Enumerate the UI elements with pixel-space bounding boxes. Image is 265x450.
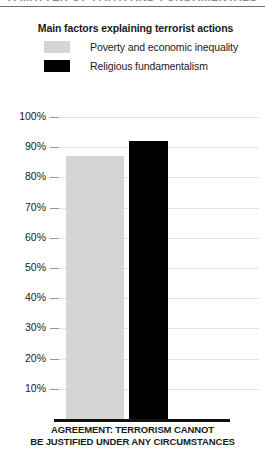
caption-line-2: BE JUSTIFIED UNDER ANY CIRCUMSTANCES <box>0 436 265 448</box>
y-tick-mark <box>50 238 59 239</box>
chart-caption: AGREEMENT: TERRORISM CANNOT BE JUSTIFIED… <box>0 424 265 448</box>
legend-swatch-poverty <box>44 41 70 53</box>
y-tick-label: 30% <box>6 321 46 333</box>
y-tick-label: 20% <box>6 352 46 364</box>
y-tick-mark <box>50 208 59 209</box>
y-tick-mark <box>50 117 59 118</box>
legend-label-poverty: Poverty and economic inequality <box>90 41 238 53</box>
y-tick-mark <box>50 328 59 329</box>
y-tick-label: 10% <box>6 382 46 394</box>
y-tick-mark <box>50 177 59 178</box>
bar-poverty <box>66 156 124 419</box>
legend-item-poverty: Poverty and economic inequality <box>0 41 265 53</box>
y-tick-label: 50% <box>6 261 46 273</box>
y-tick-mark <box>50 389 59 390</box>
header-rule <box>0 6 265 7</box>
y-tick-mark <box>50 268 59 269</box>
bar-fundamentalism <box>129 141 168 419</box>
legend-item-fundamentalism: Religious fundamentalism <box>0 60 265 72</box>
caption-line-1: AGREEMENT: TERRORISM CANNOT <box>0 424 265 436</box>
chart-title: Main factors explaining terrorist action… <box>0 22 265 34</box>
cutoff-header-strip: A MATTER OF FAITH AND FUNDAMENTALS <box>0 0 265 8</box>
cutoff-header-text: A MATTER OF FAITH AND FUNDAMENTALS <box>8 0 258 3</box>
chart-legend: Main factors explaining terrorist action… <box>0 22 265 72</box>
legend-swatch-fundamentalism <box>44 60 70 72</box>
y-tick-label: 40% <box>6 291 46 303</box>
y-tick-mark <box>50 359 59 360</box>
y-tick-label: 90% <box>6 140 46 152</box>
y-tick-label: 70% <box>6 201 46 213</box>
legend-label-fundamentalism: Religious fundamentalism <box>90 60 208 72</box>
y-tick-label: 80% <box>6 170 46 182</box>
y-tick-label: 60% <box>6 231 46 243</box>
x-axis-line <box>54 419 230 422</box>
y-tick-mark <box>50 147 59 148</box>
y-tick-mark <box>50 298 59 299</box>
gridline <box>54 117 259 118</box>
y-tick-label: 100% <box>6 110 46 122</box>
plot-area: 100%90%80%70%60%50%40%30%20%10% <box>0 100 265 420</box>
